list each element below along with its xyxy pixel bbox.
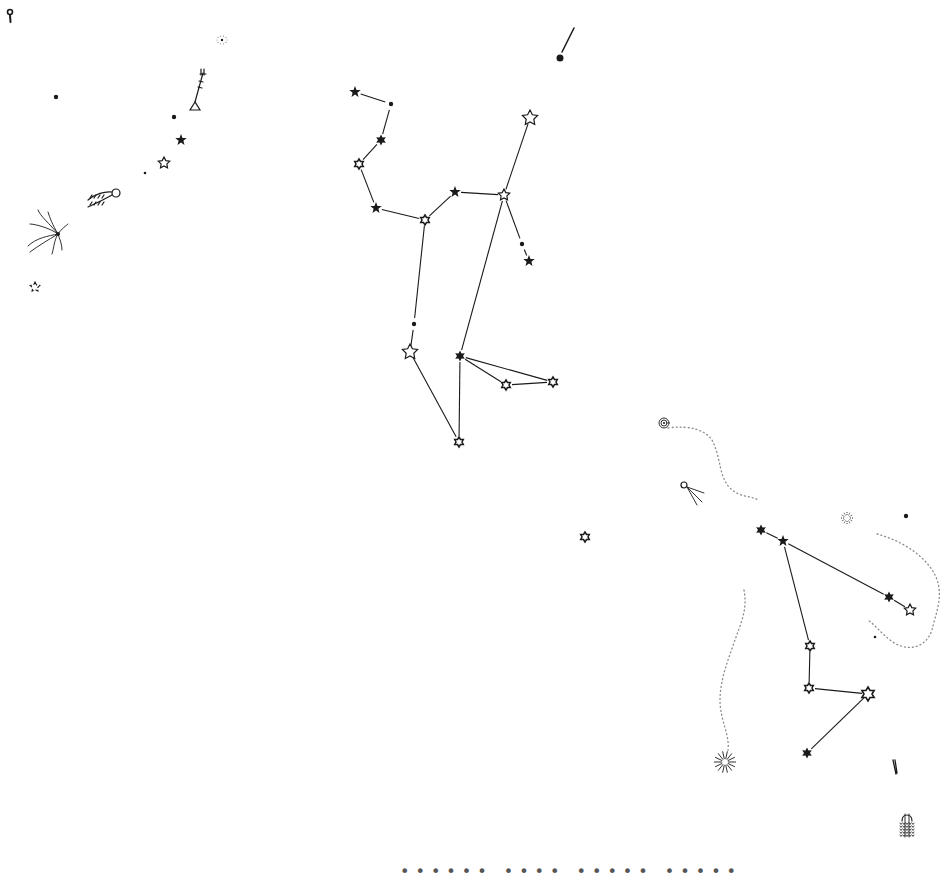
cluster-icon [841, 512, 853, 524]
star-hexagram-icon [581, 532, 590, 542]
constellation-line [361, 170, 374, 203]
star-filled-star-icon [449, 186, 460, 197]
star-dot-small-icon [874, 636, 877, 639]
star-hexagram-icon [455, 437, 464, 447]
constellation-line [461, 192, 498, 194]
star-hexagram-icon [805, 683, 814, 693]
star-hexagram-icon [549, 377, 558, 387]
burst-icon [714, 751, 736, 772]
nebula-sparkle-icon [216, 36, 227, 45]
small-comet-icon [893, 760, 897, 774]
star-dot-icon [172, 115, 176, 119]
constellation-line [506, 201, 520, 239]
meteor-streak-icon [562, 28, 574, 52]
constellation-line [411, 330, 413, 346]
star-dot-icon [54, 95, 58, 99]
comet-broom-icon [28, 210, 68, 254]
constellation-lines [361, 94, 905, 749]
constellation-line [512, 382, 547, 384]
star-dot-icon [389, 102, 393, 106]
constellation-line [766, 533, 777, 539]
constellation-line [415, 226, 425, 318]
constellation-line [466, 358, 547, 381]
constellation-line [429, 196, 450, 216]
caption-cut-off: •••••• •••• ••••• ••••• [400, 862, 800, 877]
constellation-line [382, 209, 419, 218]
chart-symbols [8, 10, 915, 838]
star-dot-icon [412, 322, 416, 326]
beehive-icon [900, 814, 914, 837]
constellation-line [361, 94, 386, 102]
constellation-line [462, 201, 503, 350]
star-dot-small-icon [144, 172, 147, 175]
trident-lamp-icon [190, 69, 206, 110]
dotted-trail [720, 590, 745, 750]
star-hexagram-icon [502, 380, 511, 390]
star-filled-hexagram-icon [802, 748, 812, 759]
star-hexagram-icon [355, 159, 364, 169]
star-open-star-large-icon [522, 110, 537, 125]
key-icon [8, 10, 13, 23]
star-hexagram-large-icon [862, 687, 874, 701]
star-hexagram-icon [421, 215, 430, 225]
comet-tail-icon [681, 482, 704, 505]
star-hexagram-icon [806, 641, 815, 651]
constellation-line [413, 357, 456, 436]
spiral-nebula-icon [659, 418, 669, 428]
star-dot-icon [904, 514, 908, 518]
star-filled-hexagram-icon [756, 525, 766, 536]
star-open-star-large-icon [402, 344, 417, 359]
star-filled-star-icon [175, 134, 186, 145]
star-open-star-icon [158, 157, 169, 168]
star-filled-hexagram-icon [455, 351, 465, 362]
star-filled-hexagram-icon [884, 592, 894, 603]
constellation-line [809, 652, 810, 682]
comet-ring-icon [88, 189, 120, 207]
star-big-dot-icon [557, 55, 564, 62]
star-open-star-broken-icon [30, 282, 40, 291]
constellation-line [811, 698, 863, 749]
star-open-star-icon [498, 189, 509, 200]
dotted-trail [668, 427, 758, 500]
constellation-line [506, 124, 528, 190]
star-dot-icon [520, 242, 524, 246]
star-filled-star-icon [523, 255, 534, 266]
constellation-line [383, 110, 390, 134]
constellation-line [524, 250, 526, 256]
constellation-line [784, 547, 808, 640]
constellation-line [459, 362, 460, 436]
constellation-line [894, 600, 905, 607]
star-open-star-icon [904, 604, 915, 615]
dotted-paths [668, 427, 939, 750]
constellation-line [815, 689, 862, 694]
star-filled-star-icon [777, 535, 788, 546]
constellation-line [788, 544, 883, 594]
star-filled-star-icon [370, 202, 381, 213]
constellation-line [363, 144, 377, 159]
dotted-trail [868, 534, 939, 647]
stars [30, 55, 916, 759]
star-filled-star-icon [349, 86, 360, 97]
star-filled-hexagram-icon [376, 135, 386, 146]
